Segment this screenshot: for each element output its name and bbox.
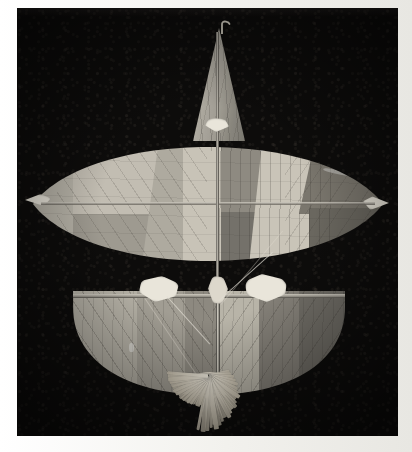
lower-wing-glint (129, 343, 134, 352)
kite (17, 8, 398, 436)
photograph-field (17, 8, 398, 436)
tassel (113, 372, 303, 436)
cross-spar-lower (73, 294, 345, 298)
photo-print: Traditional kite with lens-shaped wing a… (0, 0, 412, 452)
upper-wing-glint-a (259, 141, 273, 152)
cross-spar (41, 202, 375, 205)
